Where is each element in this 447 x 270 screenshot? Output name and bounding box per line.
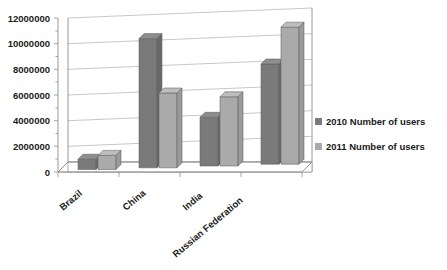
y-tick-label: 0	[45, 167, 50, 178]
chart-canvas: 12000000 10000000 8000000 6000000 400000…	[0, 0, 447, 270]
x-axis-ticks	[58, 172, 302, 177]
x-tick-label-china: China	[120, 187, 148, 213]
y-tick-label: 10000000	[8, 38, 50, 49]
bar-group-russian-federation	[261, 22, 304, 164]
bar-russia-2010	[261, 59, 284, 164]
bar-india-2011	[220, 92, 243, 166]
chart-legend: 2010 Number of users 2011 Number of user…	[315, 116, 425, 152]
legend-item-2010[interactable]: 2010 Number of users	[315, 116, 425, 127]
legend-item-2011[interactable]: 2011 Number of users	[315, 141, 425, 152]
y-axis	[54, 18, 58, 172]
bar-india-2010	[200, 112, 223, 166]
x-tick-label-brazil: Brazil	[57, 187, 84, 212]
bar-brazil-2010	[78, 154, 101, 169]
legend-label-2011: 2011 Number of users	[326, 141, 425, 152]
y-axis-labels: 12000000 10000000 8000000 6000000 400000…	[8, 13, 50, 178]
legend-swatch-2011	[315, 143, 322, 150]
bar-russia-2011	[281, 22, 304, 164]
bar-china-2010	[139, 34, 162, 168]
bar-brazil-2011	[98, 150, 121, 169]
legend-label-2010: 2010 Number of users	[326, 116, 425, 127]
bar-group-india	[200, 92, 243, 166]
y-tick-label: 6000000	[13, 90, 50, 101]
bar-group-brazil	[78, 150, 121, 169]
bar-china-2011	[159, 88, 182, 168]
bar-chart: 12000000 10000000 8000000 6000000 400000…	[0, 0, 447, 270]
y-tick-label: 2000000	[13, 141, 50, 152]
bar-group-china	[139, 34, 182, 168]
y-tick-label: 8000000	[13, 64, 50, 75]
y-tick-label: 4000000	[13, 115, 50, 126]
x-tick-label-india: India	[180, 189, 205, 212]
x-axis-labels: Brazil China India Russian Federation	[57, 187, 245, 260]
y-tick-label: 12000000	[8, 13, 50, 24]
legend-swatch-2010	[315, 118, 322, 125]
